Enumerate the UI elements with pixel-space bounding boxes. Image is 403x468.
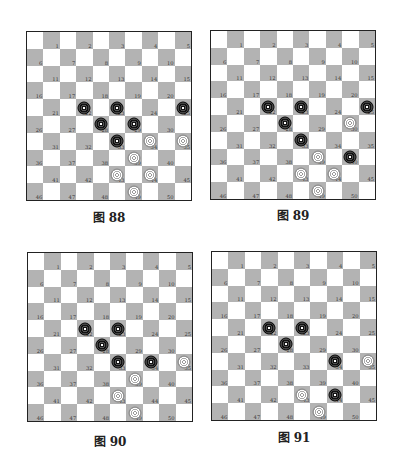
light-square — [343, 319, 359, 336]
black-piece-icon — [144, 356, 157, 369]
square-50: 50 — [343, 403, 359, 420]
light-square — [294, 336, 310, 353]
light-square — [227, 81, 243, 98]
square-37: 37 — [60, 150, 76, 167]
light-square — [326, 48, 342, 65]
light-square — [94, 320, 110, 337]
square-39: 39 — [125, 150, 141, 167]
square-6: 6 — [27, 49, 43, 66]
square-2: 2 — [76, 32, 92, 49]
square-47: 47 — [245, 403, 261, 420]
light-square — [61, 387, 77, 404]
square-4: 4 — [142, 32, 158, 49]
light-square — [109, 116, 125, 133]
square-12: 12 — [76, 66, 92, 83]
light-square — [77, 303, 93, 320]
light-square — [360, 302, 376, 319]
square-11: 11 — [44, 287, 60, 304]
square-5: 5 — [176, 253, 192, 270]
square-14: 14 — [326, 65, 342, 82]
light-square — [309, 165, 325, 182]
square-49: 49 — [310, 403, 326, 420]
light-square — [227, 149, 243, 166]
square-33: 33 — [294, 353, 310, 370]
square-18: 18 — [278, 302, 294, 319]
light-square — [27, 133, 43, 150]
light-square — [278, 353, 294, 370]
square-3: 3 — [109, 32, 125, 49]
light-square — [158, 166, 174, 183]
square-27: 27 — [244, 115, 260, 132]
square-29: 29 — [125, 116, 141, 133]
square-5: 5 — [360, 252, 376, 269]
square-26: 26 — [211, 115, 227, 132]
square-44: 44 — [142, 166, 158, 183]
light-square — [211, 31, 227, 48]
square-41: 41 — [228, 386, 244, 403]
square-4: 4 — [143, 253, 159, 270]
square-12: 12 — [77, 287, 93, 304]
black-piece-icon — [112, 322, 125, 335]
square-9: 9 — [126, 270, 142, 287]
square-16: 16 — [27, 82, 43, 99]
light-square — [77, 371, 93, 388]
light-square — [61, 287, 77, 304]
light-square — [143, 337, 159, 354]
square-39: 39 — [309, 149, 325, 166]
square-9: 9 — [125, 49, 141, 66]
square-13: 13 — [294, 286, 310, 303]
light-square — [359, 182, 375, 199]
light-square — [28, 354, 44, 371]
light-square — [60, 166, 76, 183]
square-41: 41 — [44, 387, 60, 404]
draughts-board: 1234567891011121314151617181920212223242… — [211, 251, 377, 421]
white-piece-icon — [143, 168, 156, 181]
light-square — [359, 48, 375, 65]
white-piece-icon — [327, 167, 340, 180]
square-14: 14 — [327, 286, 343, 303]
light-square — [43, 116, 59, 133]
light-square — [27, 99, 43, 116]
light-square — [211, 98, 227, 115]
square-30: 30 — [158, 116, 174, 133]
square-23: 23 — [294, 319, 310, 336]
light-square — [60, 99, 76, 116]
square-43: 43 — [110, 387, 126, 404]
light-square — [126, 354, 142, 371]
light-square — [143, 404, 159, 421]
square-30: 30 — [343, 336, 359, 353]
light-square — [176, 303, 192, 320]
light-square — [277, 165, 293, 182]
square-39: 39 — [126, 371, 142, 388]
light-square — [343, 353, 359, 370]
square-49: 49 — [126, 404, 142, 421]
square-25: 25 — [359, 98, 375, 115]
white-piece-icon — [311, 184, 324, 197]
light-square — [43, 49, 59, 66]
light-square — [261, 302, 277, 319]
light-square — [261, 403, 277, 420]
square-35: 35 — [360, 353, 376, 370]
light-square — [212, 252, 228, 269]
square-7: 7 — [61, 270, 77, 287]
black-piece-icon — [278, 117, 291, 130]
light-square — [60, 32, 76, 49]
white-piece-icon — [143, 135, 156, 148]
square-15: 15 — [175, 66, 191, 83]
square-44: 44 — [143, 387, 159, 404]
light-square — [212, 386, 228, 403]
light-square — [126, 320, 142, 337]
light-square — [110, 371, 126, 388]
white-piece-icon — [128, 372, 141, 385]
square-number: 50 — [351, 193, 358, 199]
light-square — [359, 149, 375, 166]
square-38: 38 — [277, 149, 293, 166]
square-31: 31 — [228, 353, 244, 370]
black-piece-icon — [94, 118, 107, 131]
square-39: 39 — [310, 370, 326, 387]
white-piece-icon — [127, 151, 140, 164]
square-18: 18 — [94, 303, 110, 320]
square-27: 27 — [245, 336, 261, 353]
white-piece-icon — [312, 405, 325, 418]
light-square — [126, 287, 142, 304]
